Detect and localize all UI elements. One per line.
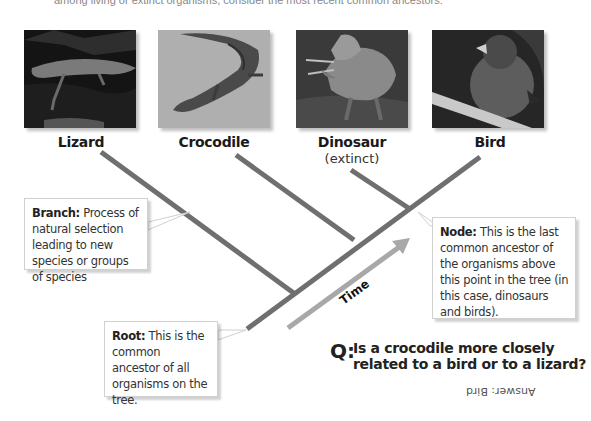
root-callout-pointer — [218, 330, 246, 340]
root-callout: Root: This is the common ancestor of all… — [104, 321, 218, 397]
branch-dinosaur — [351, 170, 410, 209]
question-text: Is a crocodile more closely related to a… — [353, 340, 591, 372]
branch-callout-pointer — [148, 212, 190, 230]
branch-callout: Branch: Process of natural selection lea… — [24, 198, 148, 270]
node-callout: Node: This is the last common ancestor o… — [432, 217, 576, 319]
branch-term: Branch: — [32, 206, 80, 220]
node-term: Node: — [440, 225, 477, 239]
answer-upside-down: Answer: Bird — [466, 385, 535, 398]
branch-crocodile — [236, 155, 354, 240]
root-term: Root: — [112, 329, 145, 343]
question-prefix: Q: — [330, 339, 355, 363]
node-definition: This is the last common ancestor of the … — [440, 225, 568, 319]
